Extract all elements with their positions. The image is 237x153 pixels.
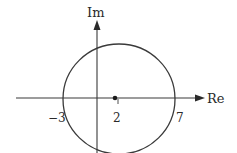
real-axis-label: Re — [207, 91, 225, 106]
center-point — [113, 96, 118, 101]
imaginary-axis-label: Im — [87, 5, 104, 20]
center-label: 2 — [113, 111, 121, 125]
right-intercept-label: 7 — [176, 111, 184, 125]
complex-plane-diagram: Im Re −3 2 7 — [0, 0, 237, 153]
real-axis-arrow-icon — [195, 95, 205, 102]
left-intercept-label: −3 — [48, 111, 66, 125]
imaginary-axis-arrow-icon — [94, 20, 101, 30]
